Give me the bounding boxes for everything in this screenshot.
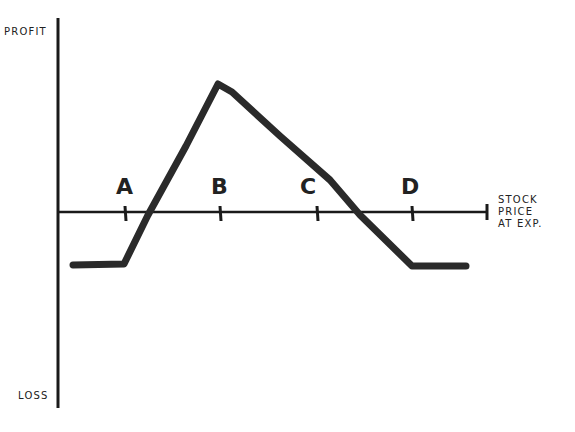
tick-label-d: D (401, 174, 419, 199)
tick-label-c: C (300, 174, 316, 199)
x-axis-label-line1: STOCK (498, 194, 543, 206)
tick-b (220, 206, 221, 221)
x-axis-label-line2: PRICE (498, 206, 543, 218)
x-axis-label: STOCK PRICE AT EXP. (498, 194, 543, 230)
tick-label-b: B (211, 174, 228, 199)
tick-a (125, 206, 126, 221)
tick-d (412, 206, 413, 221)
tick-label-a: A (116, 174, 133, 199)
tick-c (317, 206, 318, 221)
x-axis-label-line3: AT EXP. (498, 218, 543, 230)
profit-label: PROFIT (4, 26, 47, 38)
payoff-chart (0, 0, 575, 432)
loss-label: LOSS (18, 390, 49, 402)
